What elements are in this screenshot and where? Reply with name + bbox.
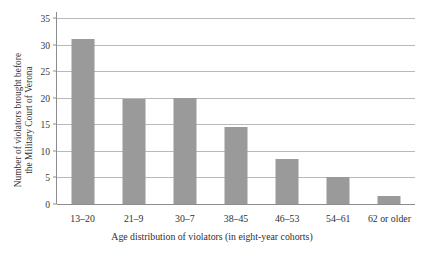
y-tick-label: 5: [45, 172, 50, 183]
x-tick-label: 54–61: [326, 213, 351, 224]
y-tick-label: 10: [40, 145, 50, 156]
y-tick-label: 20: [40, 92, 50, 103]
bar: [122, 99, 145, 204]
x-tick-label: 46–53: [275, 213, 300, 224]
y-tick-label: 35: [40, 13, 50, 24]
y-tick-label: 25: [40, 66, 50, 77]
bar: [327, 177, 350, 204]
bar-group: 46–53: [262, 18, 313, 204]
y-axis-title: Number of violators brought before the M…: [8, 25, 40, 215]
bar: [276, 159, 299, 204]
bar: [378, 196, 401, 204]
bar-chart-figure: Number of violators brought before the M…: [0, 0, 424, 258]
x-axis-title: Age distribution of violators (in eight-…: [0, 231, 424, 242]
x-tick-label: 30–7: [175, 213, 195, 224]
bar-group: 21–9: [108, 18, 159, 204]
y-tick-label: 15: [40, 119, 50, 130]
bar-group: 38–45: [210, 18, 261, 204]
x-tick-label: 38–45: [224, 213, 249, 224]
y-tick-label: 30: [40, 39, 50, 50]
x-tick-label: 13–20: [70, 213, 95, 224]
bar-series: 13–2021–930–738–4546–5354–6162 or older: [57, 18, 415, 204]
bar: [71, 39, 94, 204]
x-tick-label: 21–9: [124, 213, 144, 224]
x-axis-baseline: [57, 204, 415, 205]
y-axis-title-line-1: Number of violators brought before: [13, 53, 24, 187]
x-tick-label: 62 or older: [368, 213, 411, 224]
plot-area: 05101520253035 13–2021–930–738–4546–5354…: [57, 18, 415, 204]
bar-group: 30–7: [159, 18, 210, 204]
bar-group: 54–61: [313, 18, 364, 204]
y-axis-title-line-2: the Military Court of Verona: [24, 66, 35, 174]
bar-group: 13–20: [57, 18, 108, 204]
bar: [224, 127, 247, 204]
y-tick-label: 0: [45, 199, 50, 210]
bar: [173, 98, 196, 204]
bar-group: 62 or older: [364, 18, 415, 204]
